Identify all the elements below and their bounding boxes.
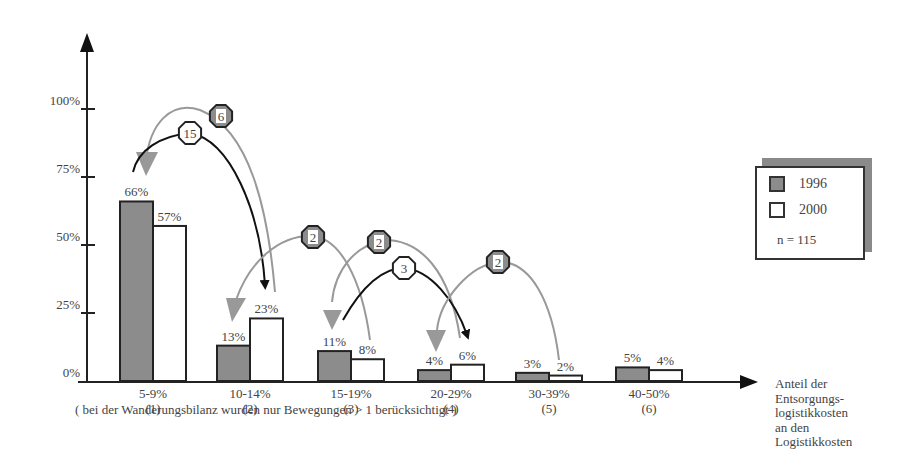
legend-swatch-2000 [769,202,785,218]
bar-1996-5 [616,367,649,381]
bar-2000-1 [250,318,283,381]
flow-count: 2 [310,230,317,245]
y-tick-label: 75% [56,161,80,176]
x-axis-title-line: Logistikkosten [775,435,852,450]
bar-2000-4 [549,376,582,381]
y-tick-label: 0% [63,365,81,380]
y-tick-label: 50% [56,229,80,244]
x-tick-label: 10-14% [229,386,270,401]
x-tick-label: 20-29% [430,386,471,401]
y-tick-label: 100% [50,93,81,108]
gray-arrowhead-icon [323,310,342,330]
bar-1996-1 [217,346,250,381]
bar-value-label: 8% [359,342,377,357]
x-axis-title-line: an den [775,421,852,436]
bar-value-label: 23% [255,301,279,316]
legend-label-2000: 2000 [799,202,827,218]
y-axis: 0%25%50%75%100% [50,33,95,382]
flow-badge-octagon-icon: 2 [302,226,324,248]
bar-value-label: 13% [222,329,246,344]
flow-badge-octagon-icon: 2 [368,231,390,253]
x-tick-label: 5-9% [139,386,167,401]
x-tick-label: 15-19% [330,386,371,401]
legend-swatch-1996 [769,176,785,192]
bar-value-label: 5% [624,350,642,365]
bar-value-label: 11% [323,334,347,349]
sample-size-label: n = 115 [777,232,816,248]
x-axis-title-line: logistikkosten [775,406,852,421]
flow-badge-octagon-icon: 3 [393,257,415,279]
flow-badge-octagon-icon: 2 [487,251,509,273]
x-axis-title: Anteil der Entsorgungs- logistikkosten a… [775,377,852,450]
flow-count: 3 [401,261,408,276]
bar-2000-2 [351,359,384,381]
flow-badge-octagon-icon: 6 [210,105,232,127]
gray-arrowhead-icon [426,330,446,352]
bar-value-label: 57% [158,209,182,224]
bar-series: 66%13%11%4%3%5%57%23%8%6%2%4% [120,184,682,381]
bar-2000-0 [153,226,186,381]
flow-count: 6 [218,109,225,124]
bar-2000-3 [451,365,484,381]
y-axis-arrow-icon [80,33,94,52]
x-axis-arrow-icon [740,375,758,389]
x-tick-label: 30-39% [528,386,569,401]
x-tick-id: (6) [641,401,656,416]
migration-flows [133,108,559,360]
bar-value-label: 4% [426,353,444,368]
legend-item-2000: 2000 [769,202,827,218]
bar-value-label: 6% [459,348,477,363]
flow-count: 2 [495,255,502,270]
x-tick-label: 40-50% [628,386,669,401]
legend-item-1996: 1996 [769,176,827,192]
bar-value-label: 66% [125,184,149,199]
bar-1996-0 [120,201,153,381]
legend-label-1996: 1996 [799,176,827,192]
bar-value-label: 2% [557,359,575,374]
bar-1996-4 [516,373,549,381]
legend: 1996 2000 n = 115 [755,166,865,260]
y-tick-label: 25% [56,297,80,312]
flow-count: 2 [376,235,383,250]
footnote: ( bei der Wanderungsbilanz wurden nur Be… [75,402,457,418]
x-axis-title-line: Entsorgungs- [775,392,852,407]
bar-2000-5 [649,370,682,381]
bar-value-label: 4% [657,353,675,368]
gray-arrowhead-icon [226,298,246,322]
gray-arrowhead-icon [136,152,158,176]
x-tick-id: (5) [541,401,556,416]
flow-badge-octagon-icon: 15 [179,122,201,144]
flow-count: 15 [184,126,197,141]
bar-1996-3 [418,370,451,381]
x-axis-title-line: Anteil der [775,377,852,392]
bar-1996-2 [318,351,351,381]
bar-value-label: 3% [524,356,542,371]
